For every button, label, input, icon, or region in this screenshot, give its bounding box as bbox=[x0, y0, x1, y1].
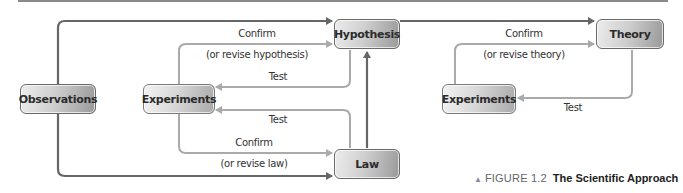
node-experiments-left: Experiments bbox=[143, 84, 215, 114]
label-test-law: Test bbox=[269, 114, 288, 125]
node-hypothesis-label: Hypothesis bbox=[334, 28, 400, 41]
triangle-marker-icon: ▲ bbox=[474, 175, 482, 184]
figure-number: FIGURE 1.2 bbox=[485, 172, 547, 184]
label-revise-theory: (or revise theory) bbox=[483, 49, 565, 60]
label-test-theory: Test bbox=[564, 102, 583, 113]
node-observations-label: Observations bbox=[19, 93, 98, 106]
node-observations: Observations bbox=[20, 84, 96, 114]
node-law-label: Law bbox=[355, 158, 379, 171]
node-experiments-left-label: Experiments bbox=[142, 93, 216, 106]
node-theory: Theory bbox=[596, 19, 664, 49]
node-law: Law bbox=[334, 149, 400, 179]
label-confirm-hypothesis: Confirm bbox=[238, 28, 275, 39]
label-confirm-theory: Confirm bbox=[505, 28, 542, 39]
figure-title: The Scientific Approach bbox=[553, 172, 679, 184]
node-experiments-right: Experiments bbox=[442, 84, 516, 114]
arrow-observations-to-law bbox=[58, 113, 332, 176]
label-revise-law: (or revise law) bbox=[220, 158, 287, 169]
label-test-hypothesis: Test bbox=[269, 71, 288, 82]
label-confirm-law: Confirm bbox=[235, 137, 272, 148]
node-hypothesis: Hypothesis bbox=[334, 19, 400, 49]
figure-caption: ▲FIGURE 1.2The Scientific Approach bbox=[474, 172, 678, 184]
node-theory-label: Theory bbox=[609, 28, 650, 41]
label-revise-hypothesis: (or revise hypothesis) bbox=[206, 49, 308, 60]
node-experiments-right-label: Experiments bbox=[442, 93, 516, 106]
